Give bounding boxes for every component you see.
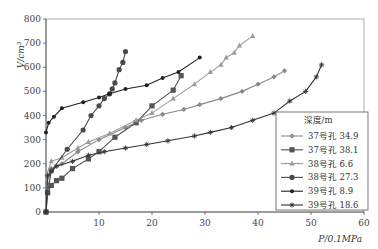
legend-label: 37号孔 38.1 <box>308 145 358 155</box>
series-1 <box>43 73 183 215</box>
legend-title: 深度/m <box>304 115 333 125</box>
data-point <box>45 173 50 178</box>
data-point <box>45 190 50 195</box>
legend-label: 39号孔 18.6 <box>308 200 358 210</box>
data-point <box>208 130 213 135</box>
data-point <box>144 142 149 147</box>
data-point <box>124 87 128 91</box>
y-axis-title: V/cm³ <box>16 41 26 68</box>
data-point <box>271 74 276 79</box>
data-point <box>192 81 197 86</box>
data-point <box>314 74 319 79</box>
data-point <box>177 70 181 74</box>
y-tick-label: 0 <box>35 207 41 217</box>
x-axis-title: P/0.1MPa <box>317 234 362 244</box>
data-point <box>197 102 202 107</box>
legend-marker <box>289 202 294 207</box>
series-line <box>46 76 181 212</box>
data-point <box>108 92 112 96</box>
data-point <box>208 69 213 74</box>
x-tick-label: 10 <box>93 218 105 228</box>
legend: 深度/m 37号孔 34.937号孔 38.138号孔 6.638号孔 27.3… <box>276 112 368 210</box>
data-point <box>250 118 255 123</box>
data-point <box>88 113 93 118</box>
y-tick-label: 300 <box>24 135 41 145</box>
data-point <box>81 127 86 132</box>
y-tick-label: 700 <box>24 38 41 48</box>
data-point <box>192 133 197 138</box>
pressure-volume-chart: 0100200300400500600700800102030405060 深度… <box>0 0 378 249</box>
data-point <box>149 110 154 115</box>
data-point <box>218 96 223 101</box>
data-point <box>120 60 125 65</box>
data-point <box>59 176 64 181</box>
legend-marker <box>289 175 294 180</box>
data-point <box>319 62 324 67</box>
data-point <box>112 135 117 140</box>
data-point <box>165 138 170 143</box>
y-tick-label: 600 <box>24 62 41 72</box>
series-line <box>46 58 200 133</box>
x-tick-label: 30 <box>199 218 211 228</box>
x-tick-label: 40 <box>252 218 264 228</box>
data-point <box>160 112 165 117</box>
data-point <box>181 107 186 112</box>
data-point <box>161 76 165 80</box>
data-point <box>44 130 48 134</box>
data-point <box>250 33 255 38</box>
data-point <box>123 49 128 54</box>
legend-marker <box>289 147 294 152</box>
legend-label: 38号孔 6.6 <box>308 159 353 169</box>
data-point <box>96 103 101 108</box>
data-point <box>255 82 260 87</box>
data-point <box>303 89 308 94</box>
data-point <box>52 115 56 119</box>
data-point <box>145 83 149 87</box>
y-tick-label: 100 <box>24 183 41 193</box>
data-point <box>117 67 122 72</box>
data-point <box>287 98 292 103</box>
data-point <box>54 178 59 183</box>
data-point <box>81 100 85 104</box>
data-point <box>70 159 75 164</box>
series-line <box>46 36 253 212</box>
y-tick-label: 200 <box>24 159 41 169</box>
data-point <box>149 103 154 108</box>
data-point <box>102 149 107 154</box>
data-point <box>282 68 287 73</box>
x-tick-label: 60 <box>358 218 370 228</box>
data-point <box>54 164 59 169</box>
data-point <box>97 95 101 99</box>
data-point <box>229 125 234 130</box>
data-point <box>123 145 128 150</box>
data-point <box>171 88 176 93</box>
x-tick-label: 20 <box>146 218 158 228</box>
legend-marker <box>290 189 294 193</box>
legend-label: 37号孔 34.9 <box>308 131 358 141</box>
data-point <box>240 89 245 94</box>
data-point <box>86 153 91 158</box>
data-point <box>43 209 48 214</box>
data-point <box>70 166 75 171</box>
y-tick-label: 400 <box>24 111 41 121</box>
series-2 <box>43 33 255 214</box>
legend-label: 38号孔 27.3 <box>308 172 358 182</box>
y-tick-label: 500 <box>24 86 41 96</box>
data-point <box>110 86 115 91</box>
data-point <box>65 147 70 152</box>
x-tick-label: 50 <box>305 218 317 228</box>
data-point <box>47 121 51 125</box>
data-point <box>112 80 117 85</box>
y-tick-label: 800 <box>24 14 41 24</box>
data-point <box>60 106 64 110</box>
data-point <box>171 96 176 101</box>
data-point <box>237 43 242 48</box>
data-point <box>198 56 202 60</box>
legend-label: 39号孔 8.9 <box>308 186 353 196</box>
